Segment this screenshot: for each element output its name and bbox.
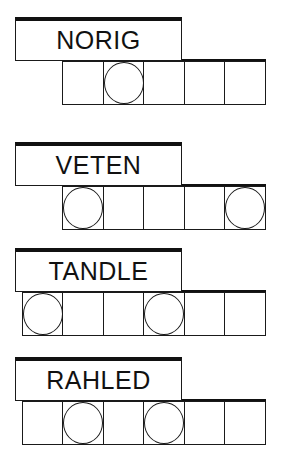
answer-cell[interactable] — [22, 401, 64, 445]
answer-cell[interactable] — [103, 401, 145, 445]
answer-cell[interactable] — [103, 61, 145, 105]
answer-cell[interactable] — [143, 186, 185, 230]
answer-cell[interactable] — [62, 61, 104, 105]
scrambled-word: NORIG — [15, 17, 182, 61]
answer-cell[interactable] — [103, 292, 145, 336]
answer-cell[interactable] — [184, 401, 226, 445]
circle-marker-icon — [104, 62, 144, 104]
answer-cell[interactable] — [62, 401, 104, 445]
answer-cell[interactable] — [224, 292, 266, 336]
answer-cell[interactable] — [184, 61, 226, 105]
circle-marker-icon — [144, 402, 184, 444]
circle-marker-icon — [23, 293, 63, 335]
answer-cell[interactable] — [184, 186, 226, 230]
answer-cell[interactable] — [224, 401, 266, 445]
answer-cells — [22, 401, 267, 445]
answer-cell[interactable] — [62, 292, 104, 336]
answer-cell[interactable] — [143, 61, 185, 105]
answer-cells — [62, 186, 266, 230]
circle-marker-icon — [144, 293, 184, 335]
answer-cell[interactable] — [22, 292, 64, 336]
circle-marker-icon — [63, 187, 103, 229]
scrambled-word: VETEN — [15, 142, 182, 186]
circle-marker-icon — [225, 187, 265, 229]
circle-marker-icon — [63, 402, 103, 444]
scrambled-word: TANDLE — [15, 248, 182, 292]
answer-cell[interactable] — [62, 186, 104, 230]
answer-cell[interactable] — [103, 186, 145, 230]
answer-cell[interactable] — [224, 61, 266, 105]
answer-cells — [22, 292, 267, 336]
scrambled-word: RAHLED — [15, 357, 182, 401]
answer-cell[interactable] — [224, 186, 266, 230]
answer-cell[interactable] — [184, 292, 226, 336]
answer-cell[interactable] — [143, 292, 185, 336]
answer-cells — [62, 61, 266, 105]
answer-cell[interactable] — [143, 401, 185, 445]
